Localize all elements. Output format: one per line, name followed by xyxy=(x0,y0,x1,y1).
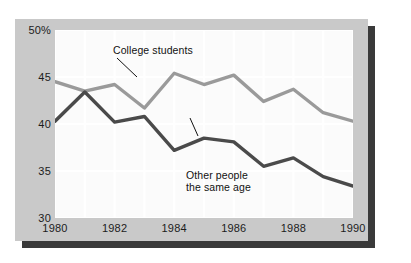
annotation-other-people: Other people the same age xyxy=(186,169,251,193)
y-tick-label-50: 50% xyxy=(15,25,51,36)
chart-figure: 50% 45 40 35 30 1980 1982 1984 1986 1988… xyxy=(0,0,411,263)
x-axis: 1980 1982 1984 1986 1988 1990 xyxy=(55,222,353,240)
x-tick-label-1988: 1988 xyxy=(281,222,306,234)
panel-shadow-bottom xyxy=(22,241,375,248)
y-tick-label-35: 35 xyxy=(15,166,51,177)
leader-line-other xyxy=(190,118,198,136)
panel-shadow-right xyxy=(368,26,375,248)
x-tick-label-1982: 1982 xyxy=(102,222,127,234)
x-tick-label-1980: 1980 xyxy=(42,222,67,234)
x-tick-label-1984: 1984 xyxy=(162,222,187,234)
leader-line-college xyxy=(117,58,137,77)
x-tick-label-1990: 1990 xyxy=(340,222,365,234)
y-tick-label-45: 45 xyxy=(15,72,51,83)
annotation-college-students: College students xyxy=(113,44,193,56)
y-tick-label-40: 40 xyxy=(15,119,51,130)
y-axis: 50% 45 40 35 30 xyxy=(11,30,51,218)
x-tick-label-1986: 1986 xyxy=(221,222,246,234)
